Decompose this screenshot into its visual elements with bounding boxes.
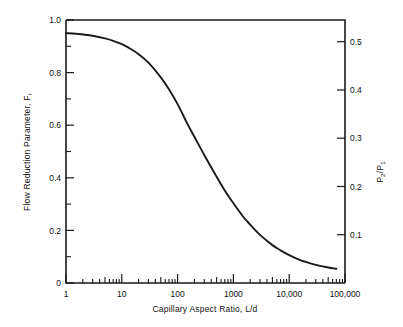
tick-label: 0.3 [350, 133, 362, 143]
x-axis-title: Capillary Aspect Ratio, L/d [152, 304, 257, 314]
svg-text:Flow Reduction Parameter, Fr: Flow Reduction Parameter, Fr [22, 93, 33, 211]
tick-label: 1 [64, 289, 69, 299]
tick-label: 0.2 [49, 226, 61, 236]
y-axis-title: Flow Reduction Parameter, Fr [22, 93, 33, 211]
tick-label: 0.1 [350, 230, 362, 240]
y2-axis-title: P2/P1 [375, 161, 386, 183]
tick-label: 10,000 [276, 289, 302, 299]
data-series-line [66, 33, 336, 269]
tick-label: 100,000 [330, 289, 361, 299]
tick-label: 10 [117, 289, 127, 299]
tick-label: 0.4 [350, 85, 362, 95]
tick-label: 1000 [224, 289, 243, 299]
plot-frame [66, 20, 345, 283]
tick-label: 0 [56, 278, 61, 288]
chart-figure: 00.20.40.60.81.0 0.10.20.30.40.5 1101001… [0, 0, 403, 327]
y2-axis-tick-labels: 0.10.20.30.40.5 [350, 37, 362, 240]
y-axis-tick-labels: 00.20.40.60.81.0 [49, 15, 61, 288]
tick-label: 0.5 [350, 37, 362, 47]
x-axis-major-ticks [66, 274, 345, 283]
svg-text:P2/P1: P2/P1 [375, 161, 386, 183]
tick-label: 0.4 [49, 173, 61, 183]
flow-reduction-chart: 00.20.40.60.81.0 0.10.20.30.40.5 1101001… [0, 0, 403, 327]
x-axis-tick-labels: 110100100010,000100,000 [64, 289, 361, 299]
tick-label: 100 [171, 289, 185, 299]
tick-label: 0.2 [350, 182, 362, 192]
tick-label: 0.8 [49, 68, 61, 78]
tick-label: 0.6 [49, 120, 61, 130]
y2-axis-ticks [337, 42, 345, 235]
tick-label: 1.0 [49, 15, 61, 25]
